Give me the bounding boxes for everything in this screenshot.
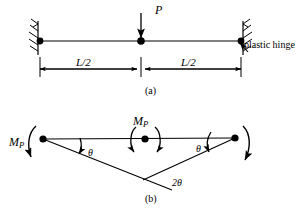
angle-label-right: θ [196, 144, 201, 154]
angle-label-left: θ [88, 148, 93, 158]
undeformed-axis [43, 138, 235, 139]
load-label-P: P [155, 4, 162, 16]
moment-label-center-subscript: P [143, 119, 148, 129]
mech-left-node [39, 135, 46, 142]
moment-arrow-left [29, 126, 36, 157]
figure-container: P L/2 L/2 plastic hinge (a) MP MP θ θ 2θ… [0, 0, 307, 212]
displaced-segment-right [143, 138, 235, 180]
moment-label-left-base: M [9, 135, 19, 149]
plastic-hinge-label: plastic hinge [244, 40, 295, 50]
moment-label-left: MP [9, 136, 24, 150]
beam-mechanism-diagram [0, 0, 307, 212]
panel-b-group [29, 126, 250, 190]
panel-b-caption: (b) [145, 194, 157, 204]
moment-arrow-right [243, 126, 249, 160]
dimension-label-left: L/2 [76, 57, 91, 68]
panel-a-group [29, 13, 252, 77]
left-support [29, 19, 38, 55]
panel-a-caption: (a) [145, 86, 156, 96]
center-hinge-node [137, 37, 145, 45]
moment-label-center: MP [133, 115, 148, 129]
displaced-segment-left [43, 139, 172, 190]
dimension-lines [40, 57, 241, 77]
mech-right-node [231, 134, 238, 141]
moment-arrow-center-left [131, 127, 136, 152]
moment-label-center-base: M [133, 114, 143, 128]
moment-arrow-center-right [155, 127, 160, 152]
angle-label-center: 2θ [172, 178, 182, 188]
dimension-label-right: L/2 [181, 57, 196, 68]
angle-arc-left [79, 138, 81, 154]
moment-label-left-subscript: P [19, 140, 24, 150]
mech-center-node [141, 135, 148, 142]
left-hinge-node [37, 38, 44, 45]
